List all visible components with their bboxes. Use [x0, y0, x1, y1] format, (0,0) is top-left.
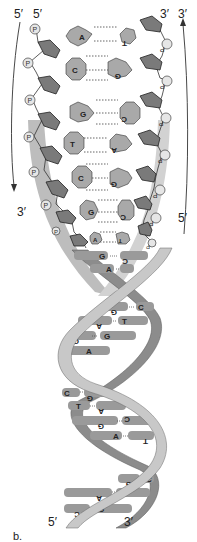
svg-text:P: P [158, 157, 163, 164]
label-3prime-bottom: 3′ [124, 515, 134, 529]
svg-text:G: G [111, 180, 117, 189]
svg-text:A: A [96, 322, 102, 331]
svg-text:P: P [26, 60, 31, 67]
svg-text:G: G [88, 208, 94, 217]
sugar-icon [38, 40, 60, 58]
svg-text:A: A [93, 237, 98, 243]
svg-text:G: G [111, 308, 117, 317]
svg-text:C: C [120, 213, 126, 222]
svg-text:G: G [80, 110, 86, 119]
label-3prime-top-right-outer: 3′ [178, 7, 188, 21]
phosphate-icon: P [23, 58, 33, 68]
ladder-base-pair: C G [72, 164, 132, 190]
ladder-base-pair: G C [80, 200, 134, 222]
svg-text:P: P [32, 169, 37, 176]
svg-text:C: C [121, 115, 127, 124]
right-direction-arrow [180, 18, 188, 234]
svg-text:A: A [79, 33, 85, 42]
svg-text:P: P [160, 83, 165, 90]
svg-text:C: C [124, 415, 130, 424]
label-3prime-top-right-inner: 3′ [160, 7, 170, 21]
svg-text:P: P [153, 192, 158, 199]
svg-text:C: C [64, 389, 70, 398]
phosphate-icon: P [30, 24, 40, 34]
label-3prime-left: 3′ [17, 205, 27, 219]
sugar-icon [136, 166, 156, 182]
svg-text:T: T [143, 437, 148, 446]
svg-text:P: P [146, 244, 150, 250]
phosphate-icon: P [160, 76, 173, 90]
panel-label: b. [13, 530, 22, 542]
left-direction-arrow [11, 22, 20, 192]
svg-text:G: G [99, 252, 105, 261]
svg-text:C: C [78, 174, 84, 183]
svg-text:T: T [70, 140, 75, 149]
ladder-base-pair: C G [66, 56, 132, 81]
ladder-base-pair: A T [90, 232, 130, 244]
sugar-icon [140, 54, 162, 70]
svg-text:T: T [122, 39, 127, 48]
phosphate-icon: P [41, 200, 51, 210]
sugar-icon [140, 16, 162, 32]
svg-text:T: T [122, 317, 127, 326]
svg-text:A: A [111, 146, 117, 155]
phosphate-icon: P [160, 39, 173, 53]
svg-text:P: P [159, 120, 164, 127]
svg-text:A: A [113, 432, 119, 441]
svg-text:P: P [160, 46, 165, 53]
base-right-icon [116, 232, 130, 244]
svg-text:P: P [33, 26, 38, 33]
sugar-icon [38, 76, 60, 94]
phosphate-icon: P [24, 132, 34, 142]
sugar-icon [138, 130, 160, 146]
svg-text:P: P [54, 229, 58, 235]
sugar-icon [140, 92, 162, 108]
phosphate-icon: P [146, 239, 156, 250]
phosphate-icon: P [52, 227, 60, 235]
phosphate-icon: P [29, 167, 39, 177]
svg-text:A: A [86, 347, 92, 356]
label-5prime-right: 5′ [178, 211, 188, 225]
svg-text:C: C [72, 66, 78, 75]
label-5prime-top-left-inner: 5′ [33, 7, 43, 21]
svg-text:G: G [115, 72, 121, 81]
svg-text:A: A [98, 407, 104, 416]
svg-text:C: C [138, 303, 144, 312]
label-5prime-top-left-outer: 5′ [14, 7, 24, 21]
dna-double-helix-diagram: 5′ 5′ 3′ 3′ 3′ 5′ P P P P P P P P P P P … [0, 0, 197, 542]
svg-text:A: A [106, 265, 112, 274]
svg-text:T: T [118, 238, 122, 244]
ladder-base-pair: T A [64, 132, 132, 155]
label-5prime-bottom: 5′ [48, 515, 58, 529]
svg-text:T: T [76, 402, 81, 411]
svg-text:G: G [104, 332, 110, 341]
ladder-base-pair: A T [66, 26, 136, 48]
svg-text:P: P [28, 97, 33, 104]
ladder-base-pair: G C [70, 100, 140, 124]
svg-text:P: P [27, 134, 32, 141]
svg-text:G: G [98, 422, 104, 431]
phosphate-icon: P [25, 95, 35, 105]
svg-text:P: P [44, 202, 49, 209]
